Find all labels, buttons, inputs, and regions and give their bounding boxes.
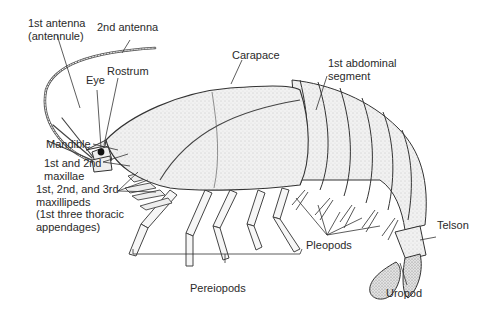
label-1st-antenna: 1st antenna (antennule) [28,17,86,42]
label-maxillipeds: 1st, 2nd, and 3rd maxillipeds (1st three… [36,183,124,233]
abdomen-shape [292,80,426,230]
label-pereiopods: Pereiopods [190,282,246,295]
crayfish-anatomy-diagram [0,0,489,312]
eye-shape [98,149,105,156]
label-uropod: Uropod [386,287,422,300]
label-telson: Telson [437,219,469,232]
label-maxillae: 1st and 2nd maxillae [44,157,102,182]
label-rostrum: Rostrum [107,65,149,78]
label-1st-abdominal-segment: 1st abdominal segment [328,57,397,82]
label-eye: Eye [86,74,105,87]
pleopods-shape [292,190,398,240]
label-2nd-antenna: 2nd antenna [97,21,158,34]
label-mandible: Mandible [46,138,91,151]
carapace-shape [106,86,308,190]
label-pleopods: Pleopods [306,239,352,252]
label-carapace: Carapace [232,49,280,62]
